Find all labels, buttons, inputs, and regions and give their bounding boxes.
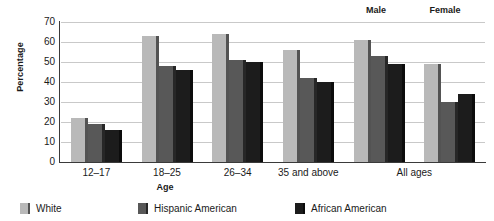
- gridline: [61, 42, 485, 43]
- legend-item-white: White: [20, 201, 62, 215]
- y-tick-label: 30: [9, 97, 55, 107]
- gridline: [61, 22, 485, 23]
- legend-swatch-african-american: [295, 203, 305, 214]
- bar-edge-shadow: [260, 62, 263, 162]
- legend-item-hispanic-american: Hispanic American: [138, 201, 237, 215]
- chart-legend: White Hispanic American African American: [10, 201, 484, 217]
- gridline: [61, 62, 485, 63]
- bar-edge-shadow: [472, 94, 475, 162]
- bar: [317, 82, 334, 162]
- bar: [142, 36, 159, 162]
- bar: [229, 60, 246, 162]
- plot-area: [61, 22, 485, 162]
- gridline: [61, 142, 485, 143]
- legend-swatch-hispanic-american: [138, 203, 148, 214]
- y-axis-line: [59, 21, 60, 163]
- y-tick-label: 60: [9, 37, 55, 47]
- bar-edge-shadow: [402, 64, 405, 162]
- legend-label: African American: [311, 203, 387, 214]
- x-axis-line: [59, 162, 486, 163]
- legend-swatch-white: [20, 203, 30, 214]
- bar: [300, 78, 317, 162]
- bar: [458, 94, 475, 162]
- bar: [424, 64, 441, 162]
- bar: [176, 70, 193, 162]
- bar: [159, 66, 176, 162]
- x-tick-label: 35 and above: [273, 167, 344, 178]
- y-tick-label: 10: [9, 137, 55, 147]
- y-axis-tick-labels: 70 60 50 40 30 20 10 0: [5, 22, 55, 162]
- bar: [441, 102, 458, 162]
- x-tick-label: 18–25: [132, 167, 203, 178]
- annotation-female: Female: [414, 5, 476, 15]
- bar: [371, 56, 388, 162]
- bar: [388, 64, 405, 162]
- bar-edge-shadow: [331, 82, 334, 162]
- y-tick-label: 40: [9, 77, 55, 87]
- x-tick-label: All ages: [344, 167, 485, 178]
- bar: [212, 34, 229, 162]
- gridline: [61, 122, 485, 123]
- bar: [105, 130, 122, 162]
- bar: [354, 40, 371, 162]
- legend-label: Hispanic American: [154, 203, 237, 214]
- bar: [88, 124, 105, 162]
- y-tick-label: 50: [9, 57, 55, 67]
- legend-label: White: [36, 203, 62, 214]
- gridline: [61, 82, 485, 83]
- gridline: [61, 102, 485, 103]
- x-axis-title: Age: [0, 182, 330, 192]
- bar: [71, 118, 88, 162]
- legend-item-african-american: African American: [295, 201, 387, 215]
- y-tick-label: 70: [9, 17, 55, 27]
- bar-edge-shadow: [119, 130, 122, 162]
- annotation-male: Male: [346, 5, 406, 15]
- x-tick-label: 26–34: [202, 167, 273, 178]
- bar-edge-shadow: [190, 70, 193, 162]
- bar: [246, 62, 263, 162]
- bar: [283, 50, 300, 162]
- y-tick-label: 0: [9, 157, 55, 167]
- x-tick-label: 12–17: [61, 167, 132, 178]
- y-tick-label: 20: [9, 117, 55, 127]
- bar-chart-figure: Percentage 70 60 50 40 30 20 10 0 12–171…: [0, 0, 494, 221]
